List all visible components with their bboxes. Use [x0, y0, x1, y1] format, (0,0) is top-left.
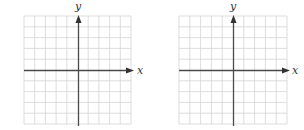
x-axis-label: x	[292, 64, 299, 77]
coordinate-grid-1: x y	[0, 0, 152, 130]
y-axis-label: y	[74, 0, 82, 13]
x-axis-arrow-icon	[126, 68, 134, 74]
grid-svg-2: x y	[152, 0, 304, 130]
x-axis-arrow-icon	[282, 68, 290, 74]
x-axis	[179, 68, 290, 74]
coordinate-grid-2: x y	[152, 0, 304, 130]
y-axis-label: y	[229, 0, 237, 13]
x-axis-label: x	[137, 64, 144, 77]
grid-svg-1: x y	[0, 0, 152, 130]
